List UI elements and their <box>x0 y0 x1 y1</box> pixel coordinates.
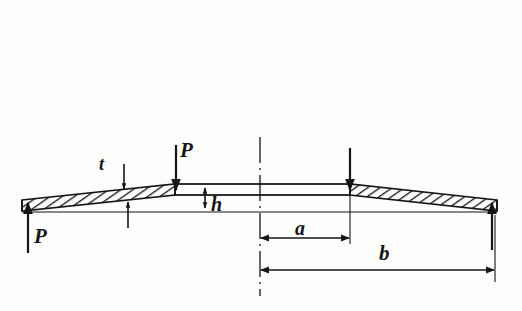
cone-flank-right <box>350 184 497 211</box>
disc-spring-diagram <box>0 0 522 311</box>
dimension-a <box>261 190 350 244</box>
cone-flank-left <box>22 184 175 211</box>
label-cone-height-h: h <box>211 194 222 214</box>
label-force-P-left: P <box>34 226 47 247</box>
label-force-P-top: P <box>180 140 193 161</box>
label-outer-radius-b: b <box>379 243 390 264</box>
label-inner-radius-a: a <box>295 218 305 238</box>
label-thickness-t: t <box>99 155 104 173</box>
central-flat-region <box>175 184 350 195</box>
